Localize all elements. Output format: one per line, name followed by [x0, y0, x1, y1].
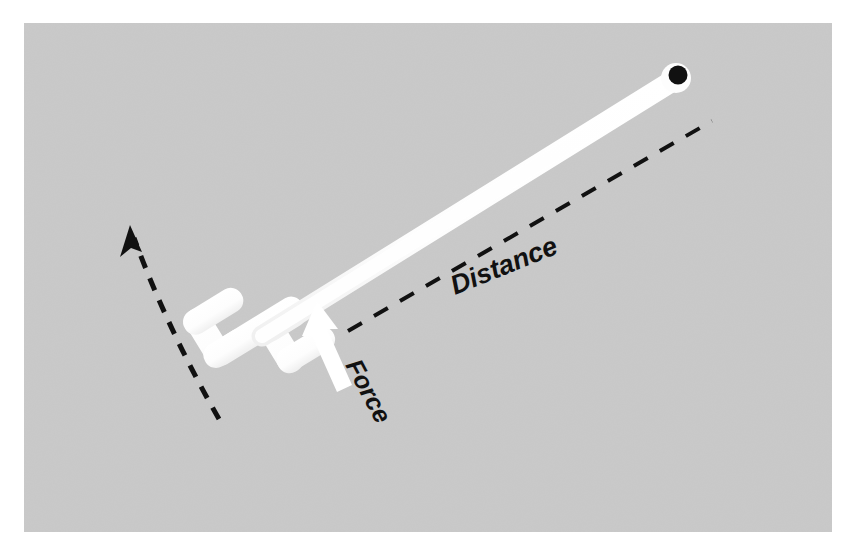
torque-diagram-figure: Distance Force: [0, 0, 853, 552]
wrench-hole-icon: [669, 66, 688, 85]
diagram-canvas: Distance Force: [0, 0, 853, 552]
panel-background: [24, 23, 832, 532]
